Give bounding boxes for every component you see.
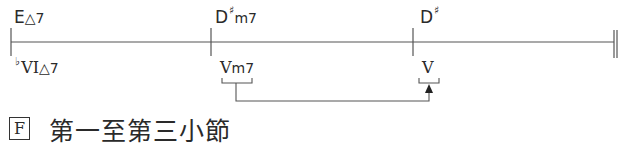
flat-icon: ♭ [15,55,20,68]
resolution-line [236,83,429,101]
roman-numeral-2: Ⅴm7 [220,58,254,77]
chord-root: E [14,7,25,27]
chord-symbol-1: E△7 [14,7,44,27]
roman-quality: m7 [232,60,255,76]
sharp-icon: ♯ [434,4,439,17]
chord-root: D [215,7,228,27]
roman-numeral-1: ♭ⅤⅠ△7 [15,58,59,77]
chord-symbol-3: D♯ [420,7,439,27]
chord-root: D [420,7,433,27]
roman-numeral: Ⅴ [220,58,232,77]
section-label-box: F [9,117,30,140]
roman-numeral: Ⅴ [422,58,434,77]
chord-quality: m7 [234,10,257,26]
sharp-icon: ♯ [229,4,234,17]
chord-symbol-2: D♯m7 [215,7,257,27]
section-title: 第一至第三小節 [49,111,231,147]
chord-quality: △7 [25,10,45,26]
roman-numeral: ⅤⅠ [21,58,39,77]
roman-numeral-3: Ⅴ [422,58,434,77]
arrow-up-icon [425,84,433,93]
roman-quality: △7 [39,60,59,76]
bracket-vm7 [222,78,252,83]
bracket-v [419,78,439,83]
